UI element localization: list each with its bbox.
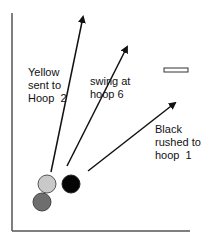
black-ball [62, 175, 80, 193]
hoop-icon [164, 68, 188, 72]
yellow-ball [38, 175, 56, 193]
dark-gray-ball [33, 193, 51, 211]
yellow-shot-label: Yellow sent to Hoop 2 [28, 66, 67, 105]
swing-shot-label: swing at hoop 6 [90, 75, 130, 101]
black-rush-label: Black rushed to hoop 1 [155, 123, 201, 162]
